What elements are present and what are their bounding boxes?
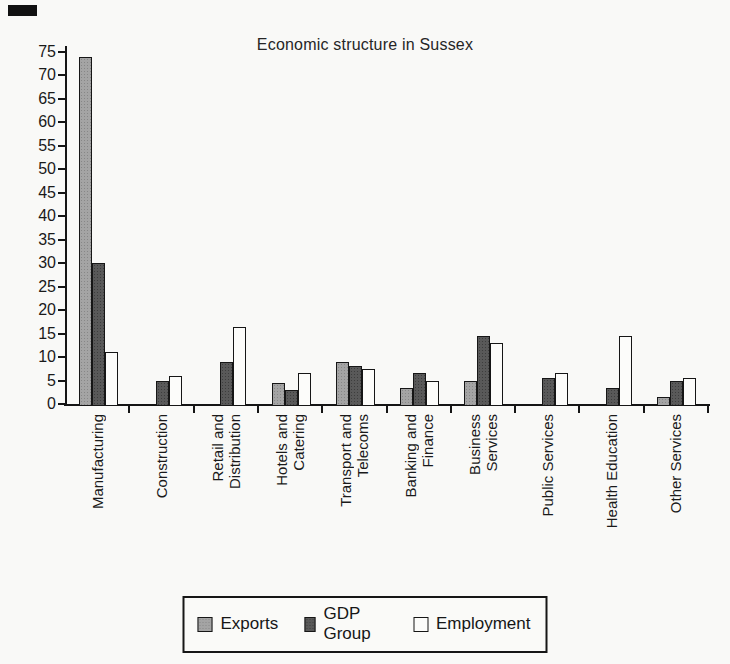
bar-gdp-group-hotels-and-catering — [285, 390, 298, 406]
y-axis-tick-label: 20 — [20, 301, 56, 319]
bar-employment-health-education — [619, 336, 632, 406]
y-axis-tick — [58, 192, 65, 194]
y-axis-tick-label: 50 — [20, 160, 56, 178]
x-category-label-line: Public Services — [539, 414, 556, 517]
bar-gdp-group-banking-and-finance — [413, 373, 426, 406]
y-axis-tick-label: 5 — [20, 372, 56, 390]
x-axis-tick — [450, 405, 452, 413]
bar-gdp-group-public-services — [542, 378, 555, 406]
bar-employment-construction — [169, 376, 182, 406]
y-axis-tick-label: 0 — [20, 395, 56, 413]
legend-swatch-gdp-group — [304, 617, 315, 632]
y-axis-tick — [58, 403, 65, 405]
bar-gdp-group-other-services — [670, 381, 683, 406]
bar-gdp-group-construction — [156, 381, 169, 406]
x-category-label-line: Hotels and — [273, 414, 290, 486]
y-axis-tick — [58, 309, 65, 311]
scan-artifact-mark — [8, 5, 37, 16]
x-category-label-line: Distribution — [226, 414, 243, 489]
y-axis-tick — [58, 121, 65, 123]
x-category-label-line: Banking and — [402, 414, 419, 497]
y-axis-tick-label: 40 — [20, 207, 56, 225]
bar-employment-other-services — [683, 378, 696, 406]
bar-employment-business-services — [490, 343, 503, 406]
x-axis-tick — [707, 405, 709, 413]
legend-swatch-exports — [198, 617, 213, 632]
bar-gdp-group-retail-and-distribution — [220, 362, 233, 406]
x-category-label: Other Services — [644, 414, 708, 513]
x-category-label-line: Other Services — [667, 414, 684, 513]
y-axis-tick — [58, 286, 65, 288]
y-axis-line — [65, 46, 67, 406]
x-category-label-line: Finance — [419, 414, 436, 467]
x-axis-tick — [643, 405, 645, 413]
x-category-label-line: Health Education — [603, 414, 620, 528]
legend-item-exports: Exports — [198, 614, 279, 634]
legend-swatch-employment — [413, 617, 428, 632]
x-axis-tick — [128, 405, 130, 413]
y-axis-tick — [58, 356, 65, 358]
x-category-label: Transport andTelecoms — [322, 414, 386, 507]
x-category-label-line: Business — [466, 414, 483, 475]
y-axis-tick-label: 15 — [20, 325, 56, 343]
bar-gdp-group-business-services — [477, 336, 490, 406]
x-category-label: BusinessServices — [451, 414, 515, 475]
x-category-label: Health Education — [579, 414, 643, 528]
legend-label: Exports — [221, 614, 279, 634]
x-category-label: Banking andFinance — [387, 414, 451, 497]
y-axis-tick-label: 70 — [20, 66, 56, 84]
bar-exports-other-services — [657, 397, 670, 406]
y-axis-tick — [58, 168, 65, 170]
y-axis-tick-label: 60 — [20, 113, 56, 131]
y-axis-tick — [58, 98, 65, 100]
y-axis-tick — [58, 74, 65, 76]
y-axis-tick — [58, 51, 65, 53]
x-category-label: Hotels andCatering — [258, 414, 322, 486]
y-axis-tick — [58, 380, 65, 382]
bar-employment-public-services — [555, 373, 568, 406]
bar-gdp-group-health-education — [606, 388, 619, 406]
legend-label: GDP Group — [323, 604, 387, 644]
bar-gdp-group-transport-and-telecoms — [349, 366, 362, 406]
y-axis-tick — [58, 333, 65, 335]
chart-title: Economic structure in Sussex — [110, 36, 620, 54]
x-category-label-line: Manufacturing — [89, 414, 106, 509]
bar-exports-manufacturing — [79, 57, 92, 406]
bar-exports-business-services — [464, 381, 477, 406]
bar-exports-transport-and-telecoms — [336, 362, 349, 406]
bar-employment-transport-and-telecoms — [362, 369, 375, 406]
x-category-label: Construction — [129, 414, 193, 498]
x-axis-tick — [386, 405, 388, 413]
x-axis-tick — [578, 405, 580, 413]
x-category-label: Retail andDistribution — [194, 414, 258, 489]
y-axis-tick — [58, 145, 65, 147]
bar-employment-manufacturing — [105, 352, 118, 406]
y-axis-tick — [58, 262, 65, 264]
bar-employment-retail-and-distribution — [233, 327, 246, 406]
y-axis-tick-label: 55 — [20, 137, 56, 155]
x-axis-tick — [193, 405, 195, 413]
bar-chart-figure: Economic structure in Sussex 05101520253… — [0, 0, 730, 664]
y-axis-tick-label: 35 — [20, 231, 56, 249]
y-axis-tick-label: 10 — [20, 348, 56, 366]
y-axis-tick — [58, 239, 65, 241]
x-category-label-line: Telecoms — [354, 414, 371, 477]
bar-gdp-group-manufacturing — [92, 263, 105, 406]
legend-label: Employment — [436, 614, 530, 634]
x-axis-tick — [321, 405, 323, 413]
y-axis-tick-label: 65 — [20, 90, 56, 108]
bar-exports-hotels-and-catering — [272, 383, 285, 406]
x-category-label-line: Catering — [290, 414, 307, 471]
y-axis-tick-label: 45 — [20, 184, 56, 202]
y-axis-tick — [58, 215, 65, 217]
x-category-label-line: Construction — [153, 414, 170, 498]
bar-employment-hotels-and-catering — [298, 373, 311, 406]
x-category-label-line: Transport and — [337, 414, 354, 507]
legend-item-gdp-group: GDP Group — [304, 604, 387, 644]
x-category-label-line: Services — [483, 414, 500, 472]
y-axis-tick-label: 75 — [20, 43, 56, 61]
legend-box: ExportsGDP GroupEmployment — [183, 596, 548, 653]
x-axis-tick — [514, 405, 516, 413]
x-axis-tick — [257, 405, 259, 413]
x-category-label-line: Retail and — [209, 414, 226, 482]
